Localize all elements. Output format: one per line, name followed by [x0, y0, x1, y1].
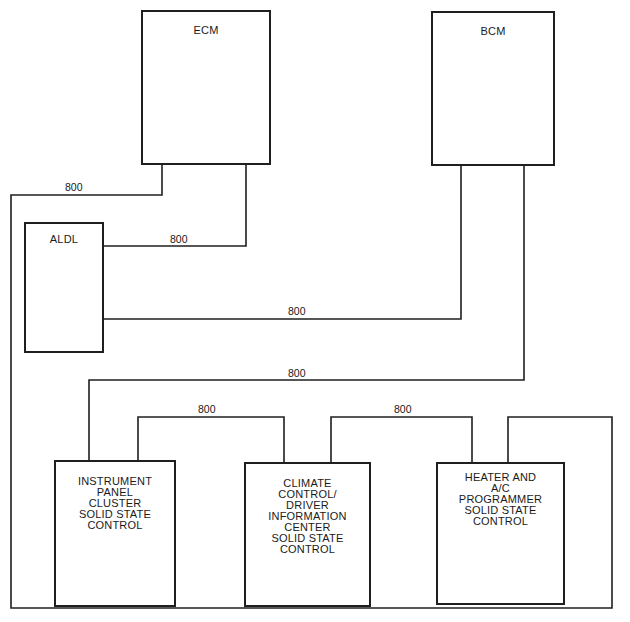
- wire-bcm-aldl: [103, 165, 461, 319]
- instrument-panel-cluster-label: INSTRUMENT PANEL CLUSTER SOLID STATE CON…: [56, 476, 174, 531]
- wire-bcm-ipc: [89, 165, 524, 460]
- wire-label-bcm-aldl: 800: [288, 306, 306, 317]
- wire-ipc-ccdic: [138, 417, 284, 462]
- wire-label-ecm-aldl: 800: [170, 234, 188, 245]
- wire-ccdic-hac: [331, 417, 472, 462]
- instrument-panel-cluster-module: INSTRUMENT PANEL CLUSTER SOLID STATE CON…: [54, 460, 176, 607]
- wire-label-ecm-outer-loop: 800: [65, 182, 83, 193]
- climate-control-dic-module: CLIMATE CONTROL/ DRIVER INFORMATION CENT…: [244, 462, 371, 607]
- heater-ac-programmer-module: HEATER AND A/C PROGRAMMER SOLID STATE CO…: [436, 462, 565, 605]
- aldl-connector: ALDL: [24, 222, 104, 353]
- wire-label-bcm-ipc: 800: [288, 368, 306, 379]
- wire-label-ccdic-hac: 800: [394, 404, 412, 415]
- ecm-module: ECM: [141, 10, 271, 165]
- aldl-label: ALDL: [26, 234, 102, 245]
- bcm-label: BCM: [433, 26, 553, 37]
- serial-data-circuit-diagram: ECM BCM ALDL INSTRUMENT PANEL CLUSTER SO…: [0, 0, 630, 622]
- ecm-label: ECM: [143, 25, 269, 36]
- wire-label-ipc-ccdic: 800: [198, 404, 216, 415]
- climate-control-dic-label: CLIMATE CONTROL/ DRIVER INFORMATION CENT…: [246, 478, 369, 555]
- heater-ac-programmer-label: HEATER AND A/C PROGRAMMER SOLID STATE CO…: [438, 472, 563, 527]
- bcm-module: BCM: [431, 11, 555, 166]
